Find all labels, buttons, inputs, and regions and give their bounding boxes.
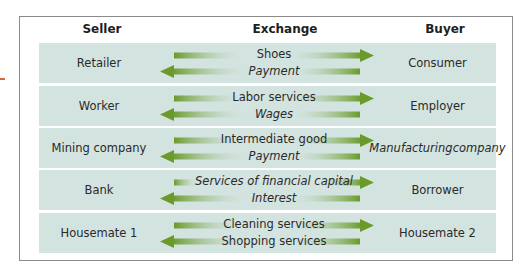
exchange-to-buyer-label: Intermediate good xyxy=(218,132,331,146)
buyer-cell: Housemate 2 xyxy=(379,213,496,253)
exchange-row: Bank Services of financial capital Inter… xyxy=(39,170,496,210)
exchange-to-buyer: Intermediate good xyxy=(149,131,399,147)
exchange-row: Mining company Intermediate good Payment… xyxy=(39,128,496,168)
seller-cell: Housemate 1 xyxy=(39,213,159,253)
exchange-to-seller-label: Payment xyxy=(246,64,303,78)
exchange-table-frame: Seller Exchange Buyer Retailer xyxy=(19,16,513,261)
header-buyer: Buyer xyxy=(405,22,485,36)
exchange-to-seller: Payment xyxy=(149,63,399,79)
exchange-to-seller-label: Interest xyxy=(249,191,300,205)
exchange-row: Worker Labor services Wages Employer xyxy=(39,86,496,126)
exchange-to-buyer: Cleaning services xyxy=(149,216,399,232)
exchange-to-buyer: Shoes xyxy=(149,46,399,62)
exchange-to-buyer-label: Shoes xyxy=(254,47,295,61)
exchange-to-seller: Payment xyxy=(149,148,399,164)
buyer-cell: Manufacturing company xyxy=(379,128,496,168)
buyer-cell: Consumer xyxy=(379,43,496,83)
header-seller: Seller xyxy=(62,22,142,36)
exchange-to-buyer-label: Services of financial capital xyxy=(192,174,356,188)
seller-cell: Bank xyxy=(39,170,159,210)
buyer-cell-line: Manufacturing xyxy=(369,142,452,155)
exchange-to-seller-label: Payment xyxy=(246,149,303,163)
seller-cell: Retailer xyxy=(39,43,159,83)
exchange-row: Retailer Shoes Payment Consumer xyxy=(39,43,496,83)
exchange-to-seller: Wages xyxy=(149,106,399,122)
accent-mark xyxy=(0,78,5,80)
exchange-to-seller-label: Shopping services xyxy=(219,234,330,248)
exchange-to-buyer: Services of financial capital xyxy=(149,173,399,189)
exchange-to-buyer-label: Labor services xyxy=(229,90,318,104)
exchange-to-seller: Interest xyxy=(149,190,399,206)
exchange-to-buyer: Labor services xyxy=(149,89,399,105)
buyer-cell-line: company xyxy=(453,142,506,155)
exchange-to-seller-label: Wages xyxy=(252,107,296,121)
exchange-row: Housemate 1 Cleaning services Shopping s… xyxy=(39,213,496,253)
buyer-cell: Borrower xyxy=(379,170,496,210)
exchange-to-seller: Shopping services xyxy=(149,233,399,249)
exchange-to-buyer-label: Cleaning services xyxy=(220,217,327,231)
buyer-cell: Employer xyxy=(379,86,496,126)
seller-cell: Mining company xyxy=(39,128,159,168)
seller-cell: Worker xyxy=(39,86,159,126)
header-exchange: Exchange xyxy=(215,22,355,36)
